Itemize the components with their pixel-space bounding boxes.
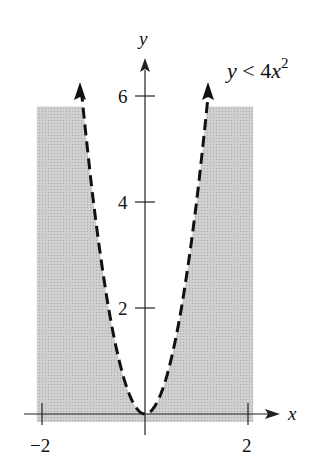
y-tick-label-4: 4 [118, 192, 128, 213]
x-tick-label-neg2: −2 [30, 435, 50, 456]
y-tick-label-6: 6 [118, 86, 128, 107]
inequality-label: y < 4x2 [225, 55, 288, 83]
x-axis-label: x [287, 403, 297, 424]
y-tick-label-2: 2 [118, 298, 128, 319]
y-axis-label: y [137, 28, 148, 49]
y-axis-arrow-icon [140, 58, 150, 72]
curve-right-arrow-icon [202, 82, 214, 100]
curve-left-arrow-icon [74, 82, 86, 100]
inequality-graph: −2 2 2 4 6 x y y < 4x2 [0, 0, 325, 476]
x-tick-label-2: 2 [242, 435, 252, 456]
